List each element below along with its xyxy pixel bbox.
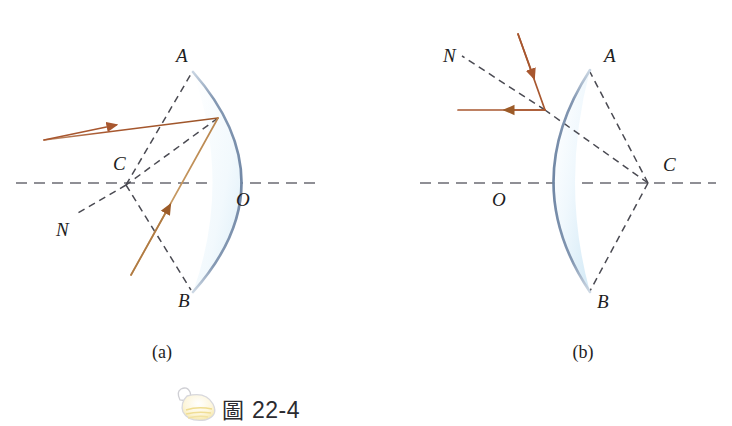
caption-cjk-label: 圖 bbox=[222, 398, 244, 423]
point-label-a-O: O bbox=[236, 189, 250, 210]
point-label-a-B: B bbox=[178, 290, 190, 311]
point-label-b-C: C bbox=[663, 154, 676, 175]
point-label-b-B: B bbox=[597, 291, 609, 312]
radius-c-to-b-line-b bbox=[590, 183, 648, 291]
panel-label-a: (a) bbox=[152, 342, 172, 363]
normal-extension-to-n-b bbox=[462, 56, 545, 110]
panel-label-b: (b) bbox=[573, 342, 594, 363]
point-label-b-O: O bbox=[492, 189, 506, 210]
figure-container: A B C O N (a) A B C O N (b) bbox=[0, 0, 732, 426]
caption-number: 22-4 bbox=[252, 397, 300, 423]
point-label-a-C: C bbox=[113, 153, 126, 174]
radius-c-to-a-line-a bbox=[126, 74, 191, 185]
point-label-a-A: A bbox=[174, 45, 188, 66]
panel-b: A B C O N (b) bbox=[420, 34, 716, 363]
point-label-a-N: N bbox=[55, 219, 70, 240]
optics-diagram: A B C O N (a) A B C O N (b) bbox=[0, 0, 732, 426]
panel-a: A B C O N (a) bbox=[16, 45, 316, 363]
normal-extension-to-n-a bbox=[78, 185, 126, 213]
incident-ray-arrowhead-b bbox=[518, 34, 534, 78]
point-label-b-N: N bbox=[442, 45, 457, 66]
radius-c-to-b-line-a bbox=[126, 185, 191, 290]
radius-c-to-a-line-b bbox=[590, 72, 648, 183]
reflected-ray-arrowhead-a bbox=[131, 205, 170, 275]
point-label-b-A: A bbox=[602, 45, 616, 66]
bulb-flask-icon bbox=[178, 388, 215, 420]
incident-ray-a bbox=[44, 118, 218, 140]
figure-caption: 圖 22-4 bbox=[178, 388, 300, 423]
